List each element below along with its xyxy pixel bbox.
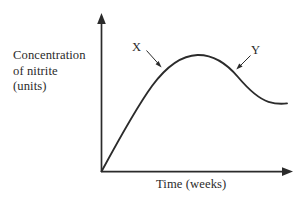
y-axis-label-line-1: Concentration	[13, 48, 86, 64]
graph-figure: Concentration of nitrite (units) Time (w…	[0, 0, 308, 199]
annotation-label-y: Y	[251, 44, 260, 57]
y-annotation-leader-line	[240, 56, 251, 67]
y-axis-label-line-3: (units)	[13, 79, 86, 95]
graph-canvas	[0, 0, 308, 199]
x-annotation-leader-line	[147, 51, 159, 65]
y-axis-label-line-2: of nitrite	[13, 64, 86, 80]
x-axis-label: Time (weeks)	[156, 177, 226, 193]
y-axis-arrowhead-icon	[97, 13, 106, 24]
nitrite-concentration-curve	[102, 55, 288, 172]
y-axis-label: Concentration of nitrite (units)	[13, 48, 86, 95]
x-axis-arrowhead-icon	[282, 167, 293, 176]
annotation-label-x: X	[132, 41, 141, 54]
